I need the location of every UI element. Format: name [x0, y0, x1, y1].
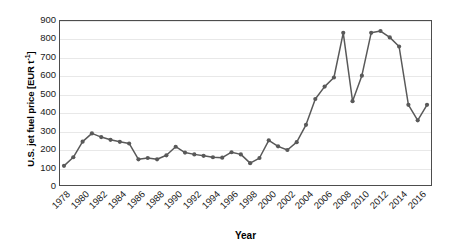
x-axis-title: Year [59, 230, 432, 241]
x-axis-tick-labels: 1978198019821984198619881990199219941996… [0, 0, 450, 249]
chart-figure: U.S. jet fuel price [EUR t-1] 9008007006… [0, 0, 450, 249]
